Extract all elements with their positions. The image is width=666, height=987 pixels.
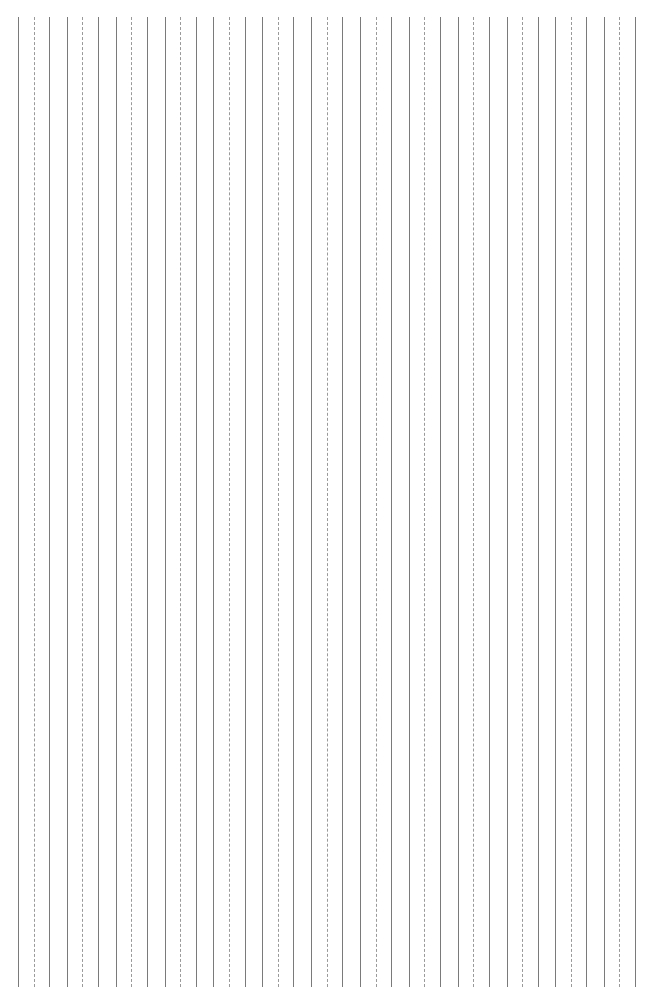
vertical-line-solid-left bbox=[213, 17, 214, 987]
vertical-line-solid-left bbox=[409, 17, 410, 987]
vertical-line-solid-right bbox=[293, 17, 294, 987]
line-pattern-canvas bbox=[0, 0, 666, 987]
vertical-line-dashed-middle bbox=[131, 17, 132, 987]
vertical-line-solid-right bbox=[98, 17, 99, 987]
vertical-line-dashed-middle bbox=[229, 17, 230, 987]
vertical-line-solid-right bbox=[342, 17, 343, 987]
vertical-line-dashed-middle bbox=[278, 17, 279, 987]
vertical-line-dashed-middle bbox=[327, 17, 328, 987]
vertical-line-dashed-middle bbox=[82, 17, 83, 987]
vertical-line-solid-right bbox=[196, 17, 197, 987]
vertical-line-solid-left bbox=[18, 17, 19, 987]
vertical-line-solid-right bbox=[49, 17, 50, 987]
vertical-line-solid-left bbox=[458, 17, 459, 987]
vertical-line-solid-right bbox=[635, 17, 636, 987]
vertical-line-solid-left bbox=[262, 17, 263, 987]
vertical-line-solid-right bbox=[538, 17, 539, 987]
vertical-line-solid-right bbox=[245, 17, 246, 987]
vertical-line-solid-left bbox=[507, 17, 508, 987]
vertical-line-dashed-middle bbox=[180, 17, 181, 987]
vertical-line-solid-left bbox=[311, 17, 312, 987]
vertical-line-dashed-middle bbox=[522, 17, 523, 987]
vertical-line-dashed-middle bbox=[619, 17, 620, 987]
vertical-line-solid-right bbox=[586, 17, 587, 987]
vertical-line-solid-left bbox=[604, 17, 605, 987]
vertical-line-solid-right bbox=[391, 17, 392, 987]
vertical-line-dashed-middle bbox=[376, 17, 377, 987]
vertical-line-solid-left bbox=[555, 17, 556, 987]
vertical-line-dashed-middle bbox=[473, 17, 474, 987]
vertical-line-solid-right bbox=[440, 17, 441, 987]
vertical-line-solid-left bbox=[165, 17, 166, 987]
vertical-line-solid-left bbox=[67, 17, 68, 987]
vertical-line-dashed-middle bbox=[571, 17, 572, 987]
vertical-line-dashed-middle bbox=[34, 17, 35, 987]
vertical-line-dashed-middle bbox=[424, 17, 425, 987]
vertical-line-solid-left bbox=[116, 17, 117, 987]
vertical-line-solid-right bbox=[489, 17, 490, 987]
vertical-line-solid-right bbox=[147, 17, 148, 987]
vertical-line-solid-left bbox=[360, 17, 361, 987]
